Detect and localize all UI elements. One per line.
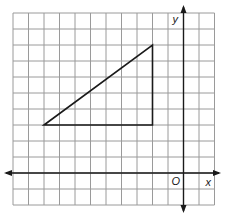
triangle xyxy=(44,45,153,125)
arrow-left-icon xyxy=(4,170,12,176)
coordinate-grid xyxy=(0,0,226,215)
origin-label: O xyxy=(172,176,181,187)
x-axis-label: x xyxy=(206,177,212,188)
arrow-up-icon xyxy=(181,5,187,13)
y-axis-label: y xyxy=(173,14,179,25)
grid-lines xyxy=(13,13,215,205)
arrow-right-icon xyxy=(213,170,221,176)
arrow-down-icon xyxy=(181,205,187,213)
